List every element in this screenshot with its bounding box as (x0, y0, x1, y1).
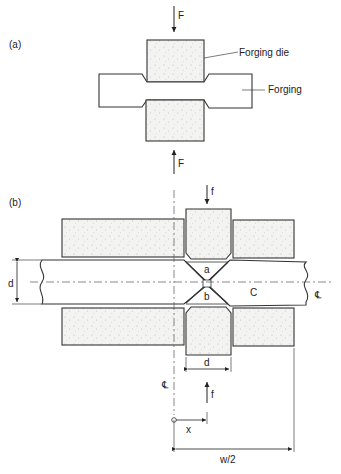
force-f-top-label: f (211, 186, 214, 197)
die-leader-line (204, 52, 238, 58)
thickness-label: d (8, 278, 14, 289)
x-label: x (186, 424, 191, 435)
centerline-symbol-right: ℄ (314, 289, 322, 300)
lower-left-die (62, 308, 184, 345)
region-a-label: a (204, 264, 210, 275)
upper-center-die (186, 209, 231, 259)
lower-forging-die (146, 100, 204, 141)
forging-diagram: (a) F Forging die Forging F (b) f a b C … (0, 0, 341, 474)
upper-left-die (62, 219, 184, 257)
forging-label: Forging (268, 84, 302, 95)
lower-center-die (186, 307, 231, 355)
panel-a (99, 6, 265, 174)
panel-a-label: (a) (9, 39, 21, 50)
force-label-top: F (178, 10, 184, 21)
die-width-label: d (204, 357, 210, 368)
neck-region (203, 280, 211, 287)
panel-b (12, 185, 333, 452)
lower-right-die (233, 308, 294, 346)
centerline-symbol-bottom: ℄ (161, 379, 169, 390)
panel-b-label: (b) (9, 197, 21, 208)
region-c-label: C (250, 287, 257, 298)
region-b-label: b (204, 291, 210, 302)
force-f-bottom-label: f (211, 389, 214, 400)
forging-die-label: Forging die (239, 47, 289, 58)
force-label-bottom: F (178, 158, 184, 169)
upper-forging-die (147, 40, 204, 82)
upper-right-die (233, 220, 294, 258)
half-width-label: w/2 (219, 454, 236, 465)
